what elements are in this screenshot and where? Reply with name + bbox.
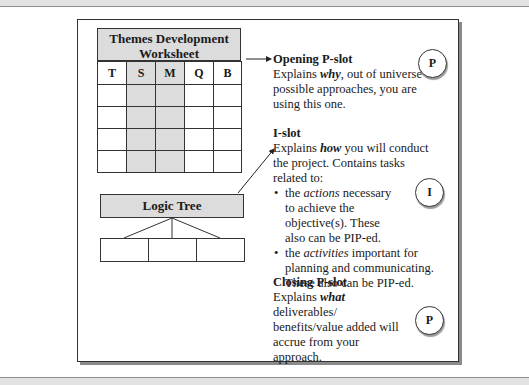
bottom-band [0,377,529,385]
opening-slot-text: Explains why, out of universe of possibl… [273,67,443,112]
p-badge-icon: P [415,306,444,335]
p-badge-icon: P [418,49,447,78]
closing-p-slot: Closing P-slot Explains what deliverable… [273,275,408,365]
arrow-to-i-slot [238,149,274,193]
tree-branch-left [124,218,172,238]
tree-branch-right [172,218,220,238]
closing-slot-heading: Closing P-slot [273,275,408,290]
closing-slot-text: Explains what deliverables/ benefits/val… [273,290,408,365]
i-slot-heading: I-slot [273,126,441,141]
i-slot: I-slot Explains how you will conduct the… [273,126,441,291]
i-slot-bullet: •the actions necessary to achieve the ob… [273,186,403,246]
i-badge-icon: I [415,178,444,207]
i-slot-text: Explains how you will conduct the projec… [273,141,441,186]
